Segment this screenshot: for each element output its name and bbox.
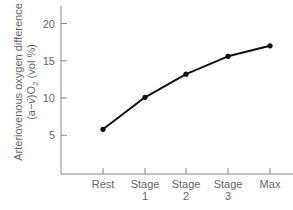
data-point-marker: [183, 72, 188, 77]
line-chart: Arteriovenous oxygen difference (a−v̄)O2…: [0, 0, 293, 210]
data-point-marker: [225, 54, 230, 59]
data-point-marker: [267, 43, 272, 48]
x-tick-label: Stage1: [131, 178, 160, 202]
data-line: [103, 46, 270, 130]
y-tick-label: 15: [43, 55, 55, 67]
y-axis-label-line-1: Arteriovenous oxygen difference: [12, 3, 24, 161]
y-tick-label: 10: [43, 92, 55, 104]
y-tick-label: 5: [49, 129, 55, 141]
data-series: [100, 43, 272, 132]
y-axis: 5101520: [43, 6, 67, 174]
x-tick-label: Stage3: [214, 178, 243, 202]
data-point-marker: [142, 95, 147, 100]
y-axis-label-line-2: (a−v̄)O2 (vol %): [25, 44, 40, 120]
y-tick-label: 20: [43, 18, 55, 30]
y-axis-label: Arteriovenous oxygen difference (a−v̄)O2…: [12, 3, 40, 161]
data-point-marker: [100, 127, 105, 132]
x-tick-label: Stage2: [172, 178, 201, 202]
x-tick-label: Max: [260, 178, 281, 190]
x-axis: RestStage1Stage2Stage3Max: [61, 168, 293, 202]
x-tick-label: Rest: [92, 178, 115, 190]
